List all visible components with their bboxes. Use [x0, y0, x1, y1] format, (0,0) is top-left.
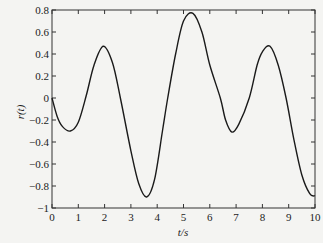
x-tick-label: 8 — [260, 211, 266, 223]
y-axis-ticks: 0.80.60.40.20−0.2−0.4−0.6−0.8−1 — [29, 4, 315, 214]
line-chart: 012345678910 0.80.60.40.20−0.2−0.4−0.6−0… — [0, 0, 323, 243]
x-tick-label: 5 — [181, 211, 187, 223]
y-tick-label: −0.6 — [29, 158, 49, 170]
x-tick-label: 1 — [76, 211, 82, 223]
x-axis-ticks: 012345678910 — [49, 10, 321, 223]
y-tick-label: 0.2 — [35, 70, 49, 82]
x-tick-label: 7 — [233, 211, 239, 223]
y-tick-label: 0.6 — [35, 26, 49, 38]
y-tick-label: 0.8 — [35, 4, 49, 16]
y-axis-title: r(t) — [14, 104, 27, 119]
y-tick-label: 0 — [44, 92, 50, 104]
y-tick-label: −1 — [37, 202, 49, 214]
y-tick-label: −0.2 — [29, 114, 49, 126]
y-tick-label: −0.4 — [29, 136, 49, 148]
x-tick-label: 4 — [154, 211, 160, 223]
x-tick-label: 9 — [286, 211, 292, 223]
x-tick-label: 3 — [128, 211, 134, 223]
y-tick-label: 0.4 — [35, 48, 49, 60]
x-tick-label: 6 — [207, 211, 213, 223]
x-axis-title: t/s — [178, 226, 188, 238]
data-line-r-t — [52, 13, 315, 197]
x-tick-label: 10 — [310, 211, 322, 223]
x-tick-label: 2 — [102, 211, 108, 223]
y-tick-label: −0.8 — [29, 180, 49, 192]
plot-area — [52, 10, 315, 208]
x-tick-label: 0 — [49, 211, 55, 223]
